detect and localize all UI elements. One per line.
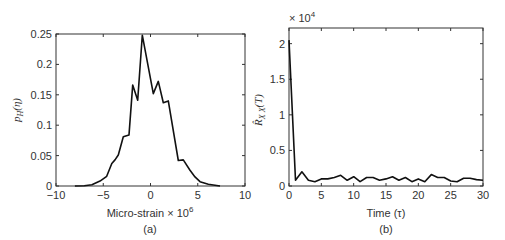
y-tick-label: 1 xyxy=(279,109,285,121)
y-tick-label: 0.05 xyxy=(31,150,52,162)
y-axis-ticks-a: 00.050.10.150.20.25 xyxy=(31,28,245,192)
x-axis-label-a: Micro-strain × 106 xyxy=(107,205,194,219)
chart-panel-a: −10−50510 00.050.10.150.20.25 Micro-stra… xyxy=(10,28,251,235)
x-tick-label: 5 xyxy=(195,189,201,201)
plot-area-a xyxy=(56,34,245,186)
x-axis-ticks-a: −10−50510 xyxy=(47,34,251,201)
panel-label-b: (b) xyxy=(379,223,392,235)
plot-area-b xyxy=(289,28,483,186)
y-tick-label: 0 xyxy=(46,180,52,192)
x-axis-label-b: Time (τ) xyxy=(367,207,406,219)
x-tick-label: 30 xyxy=(477,189,489,201)
x-tick-label: 10 xyxy=(239,189,251,201)
y-tick-label: 0.2 xyxy=(37,58,52,70)
y-tick-label: 0.5 xyxy=(270,144,285,156)
x-tick-label: 20 xyxy=(412,189,424,201)
x-tick-label: 15 xyxy=(380,189,392,201)
y-tick-label: 0 xyxy=(279,180,285,192)
x-axis-ticks-b: 051015202530 xyxy=(286,28,489,201)
y-axis-ticks-b: 00.511.52 xyxy=(270,38,483,192)
y-tick-label: 0.15 xyxy=(31,89,52,101)
y-axis-label-b: R̂X X(T) xyxy=(252,94,267,127)
figure: −10−50510 00.050.10.150.20.25 Micro-stra… xyxy=(0,0,505,240)
panel-label-a: (a) xyxy=(143,223,156,235)
chart-panel-b: 051015202530 00.511.52 × 104 Time (τ) (b… xyxy=(252,10,489,235)
x-tick-label: 0 xyxy=(147,189,153,201)
x-tick-label: −5 xyxy=(97,189,110,201)
y-tick-label: 0.25 xyxy=(31,28,52,40)
data-line-b xyxy=(289,40,483,182)
data-line-a xyxy=(75,35,220,186)
x-tick-label: 5 xyxy=(318,189,324,201)
x-tick-label: 0 xyxy=(286,189,292,201)
y-axis-label-a: pH(η) xyxy=(10,98,25,123)
y-tick-label: 0.1 xyxy=(37,119,52,131)
x-tick-label: 10 xyxy=(348,189,360,201)
y-tick-label: 1.5 xyxy=(270,73,285,85)
y-multiplier-b: × 104 xyxy=(289,10,316,24)
x-tick-label: 25 xyxy=(445,189,457,201)
y-tick-label: 2 xyxy=(279,38,285,50)
